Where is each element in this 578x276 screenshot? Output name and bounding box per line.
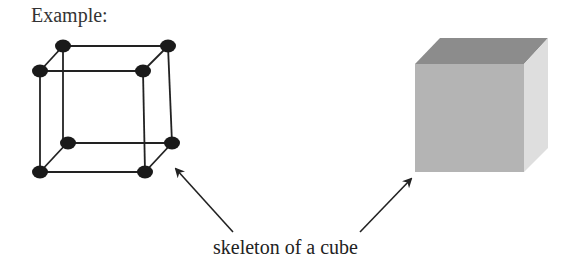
arrow-to-skeleton — [176, 169, 233, 232]
caption-label: skeleton of a cube — [213, 236, 358, 259]
solid-cube — [415, 38, 548, 172]
cube-front-face — [415, 64, 524, 172]
cube-skeleton — [40, 46, 172, 172]
diagram-canvas — [0, 0, 578, 276]
arrow-to-solid-cube — [360, 179, 411, 232]
